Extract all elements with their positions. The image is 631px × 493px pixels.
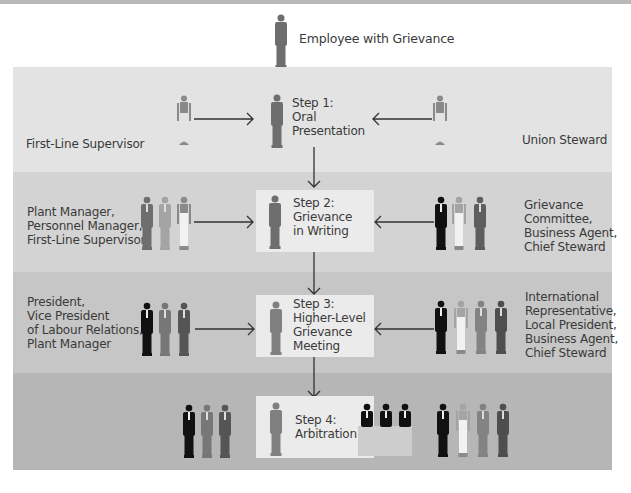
step2-label: Step 2: Grievance in Writing xyxy=(293,196,352,238)
employee-label: Employee with Grievance xyxy=(299,32,454,46)
union-group-icon xyxy=(434,196,490,250)
step2-management-label: Plant Manager, Personnel Manager, First-… xyxy=(27,205,145,247)
management-group-icon xyxy=(182,404,236,458)
employee-figure-icon xyxy=(274,14,288,68)
grievant-figure-icon xyxy=(269,301,283,355)
union-group-icon xyxy=(436,403,514,459)
step1-management-label: First-Line Supervisor xyxy=(26,137,144,151)
arrow-right-icon xyxy=(194,112,256,126)
management-group-icon xyxy=(140,302,194,356)
step3-label: Step 3: Higher-Level Grievance Meeting xyxy=(293,297,366,353)
management-group-icon xyxy=(140,196,194,250)
arrow-left-icon xyxy=(372,322,434,336)
arrow-right-icon xyxy=(194,215,256,229)
grievant-figure-icon xyxy=(268,195,282,249)
arbitration-panel-icon xyxy=(360,403,414,427)
arrow-down-icon xyxy=(306,252,322,296)
step3-management-label: President, Vice President of Labour Rela… xyxy=(27,295,143,351)
grievant-figure-icon xyxy=(269,402,283,456)
step1-union-label: Union Steward xyxy=(522,133,607,147)
arrow-down-icon xyxy=(306,357,322,399)
grievant-figure-icon xyxy=(270,94,284,148)
step1-label: Step 1: Oral Presentation xyxy=(292,96,365,138)
arbitrator-table xyxy=(358,426,412,456)
supervisor-figure-icon xyxy=(176,95,192,147)
step4-label: Step 4: Arbitration xyxy=(295,413,357,441)
step3-union-label: International Representative, Local Pres… xyxy=(525,290,618,360)
arrow-left-icon xyxy=(372,215,434,229)
step2-union-label: Grievance Committee, Business Agent, Chi… xyxy=(524,198,617,254)
top-bar xyxy=(0,0,631,4)
arrow-down-icon xyxy=(306,147,322,189)
union-steward-figure-icon xyxy=(432,95,448,147)
arrow-right-icon xyxy=(195,322,257,336)
arrow-left-icon xyxy=(370,112,432,126)
union-group-icon xyxy=(434,300,512,356)
